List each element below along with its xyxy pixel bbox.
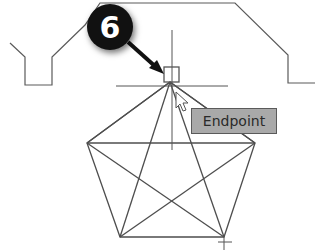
mouse-pointer-icon <box>176 92 188 111</box>
step-number-badge: 6 <box>87 4 133 50</box>
callout-arrow <box>128 42 164 74</box>
pentagon-shape <box>87 82 255 237</box>
crosshair-cursor <box>116 30 232 250</box>
osnap-endpoint-tooltip: Endpoint <box>191 108 277 134</box>
step-number: 6 <box>100 10 121 45</box>
tooltip-label: Endpoint <box>203 113 265 129</box>
